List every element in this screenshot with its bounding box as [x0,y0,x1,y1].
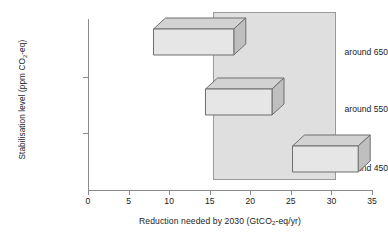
x-axis-tick-20 [250,191,251,195]
x-axis-title-suffix: -eq/yr) [275,216,301,226]
bar-around-650-front-face [153,29,233,55]
x-tick-label-15: 15 [197,196,223,206]
x-tick-label-35: 35 [359,196,385,206]
x-tick-label-25: 25 [278,196,304,206]
bar-around-650-shape [153,18,247,57]
x-tick-label-10: 10 [156,196,182,206]
chart-figure: Stabilisation level (ppm CO2-eq) around … [0,0,388,238]
x-axis-tick-30 [331,191,332,195]
x-axis-line [88,190,373,191]
x-axis-tick-15 [210,191,211,195]
x-axis-title-prefix: Reduction needed by 2030 (GtCO [139,216,272,226]
bar-around-450-top-face [292,135,370,146]
y-axis-tick-2 [83,133,88,134]
bar-around-550-shape [205,78,286,117]
bar-around-550-front-face [205,89,271,115]
x-tick-label-20: 20 [237,196,263,206]
x-axis-tick-35 [372,191,373,195]
x-tick-label-30: 30 [318,196,344,206]
y-axis-title-subscript: 2 [22,55,28,58]
bar-around-450-front-face [292,146,358,172]
x-axis-tick-0 [88,191,89,195]
bar-around-650-top-face [153,18,245,29]
bar-around-550-top-face [205,78,283,89]
y-axis-title-suffix: -eq) [18,40,27,55]
x-axis-tick-25 [291,191,292,195]
x-axis-title: Reduction needed by 2030 (GtCO2-eq/yr) [60,216,380,226]
y-axis-line [88,19,89,191]
x-tick-label-0: 0 [75,196,101,206]
y-axis-tick-1 [83,77,88,78]
y-axis-title: Stabilisation level (ppm CO2-eq) [18,15,27,185]
x-tick-label-5: 5 [116,196,142,206]
x-axis-tick-5 [129,191,130,195]
y-axis-title-prefix: Stabilisation level (ppm CO [18,58,27,159]
bar-around-450-shape [292,135,372,174]
x-axis-tick-10 [169,191,170,195]
